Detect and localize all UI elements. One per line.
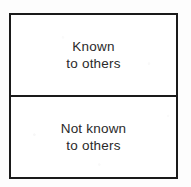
cell-known-to-others-line-2: to others bbox=[66, 55, 120, 72]
cell-not-known-to-others: Not known to others bbox=[11, 97, 176, 177]
cell-not-known-to-others-line-1: Not known bbox=[61, 120, 127, 137]
cell-not-known-to-others-line-2: to others bbox=[66, 137, 120, 154]
cell-known-to-others-line-1: Known bbox=[72, 38, 114, 55]
scanned-diagram-page: Known to others Not known to others bbox=[0, 0, 191, 187]
cell-known-to-others: Known to others bbox=[11, 15, 176, 97]
quadrant-box: Known to others Not known to others bbox=[9, 13, 178, 179]
